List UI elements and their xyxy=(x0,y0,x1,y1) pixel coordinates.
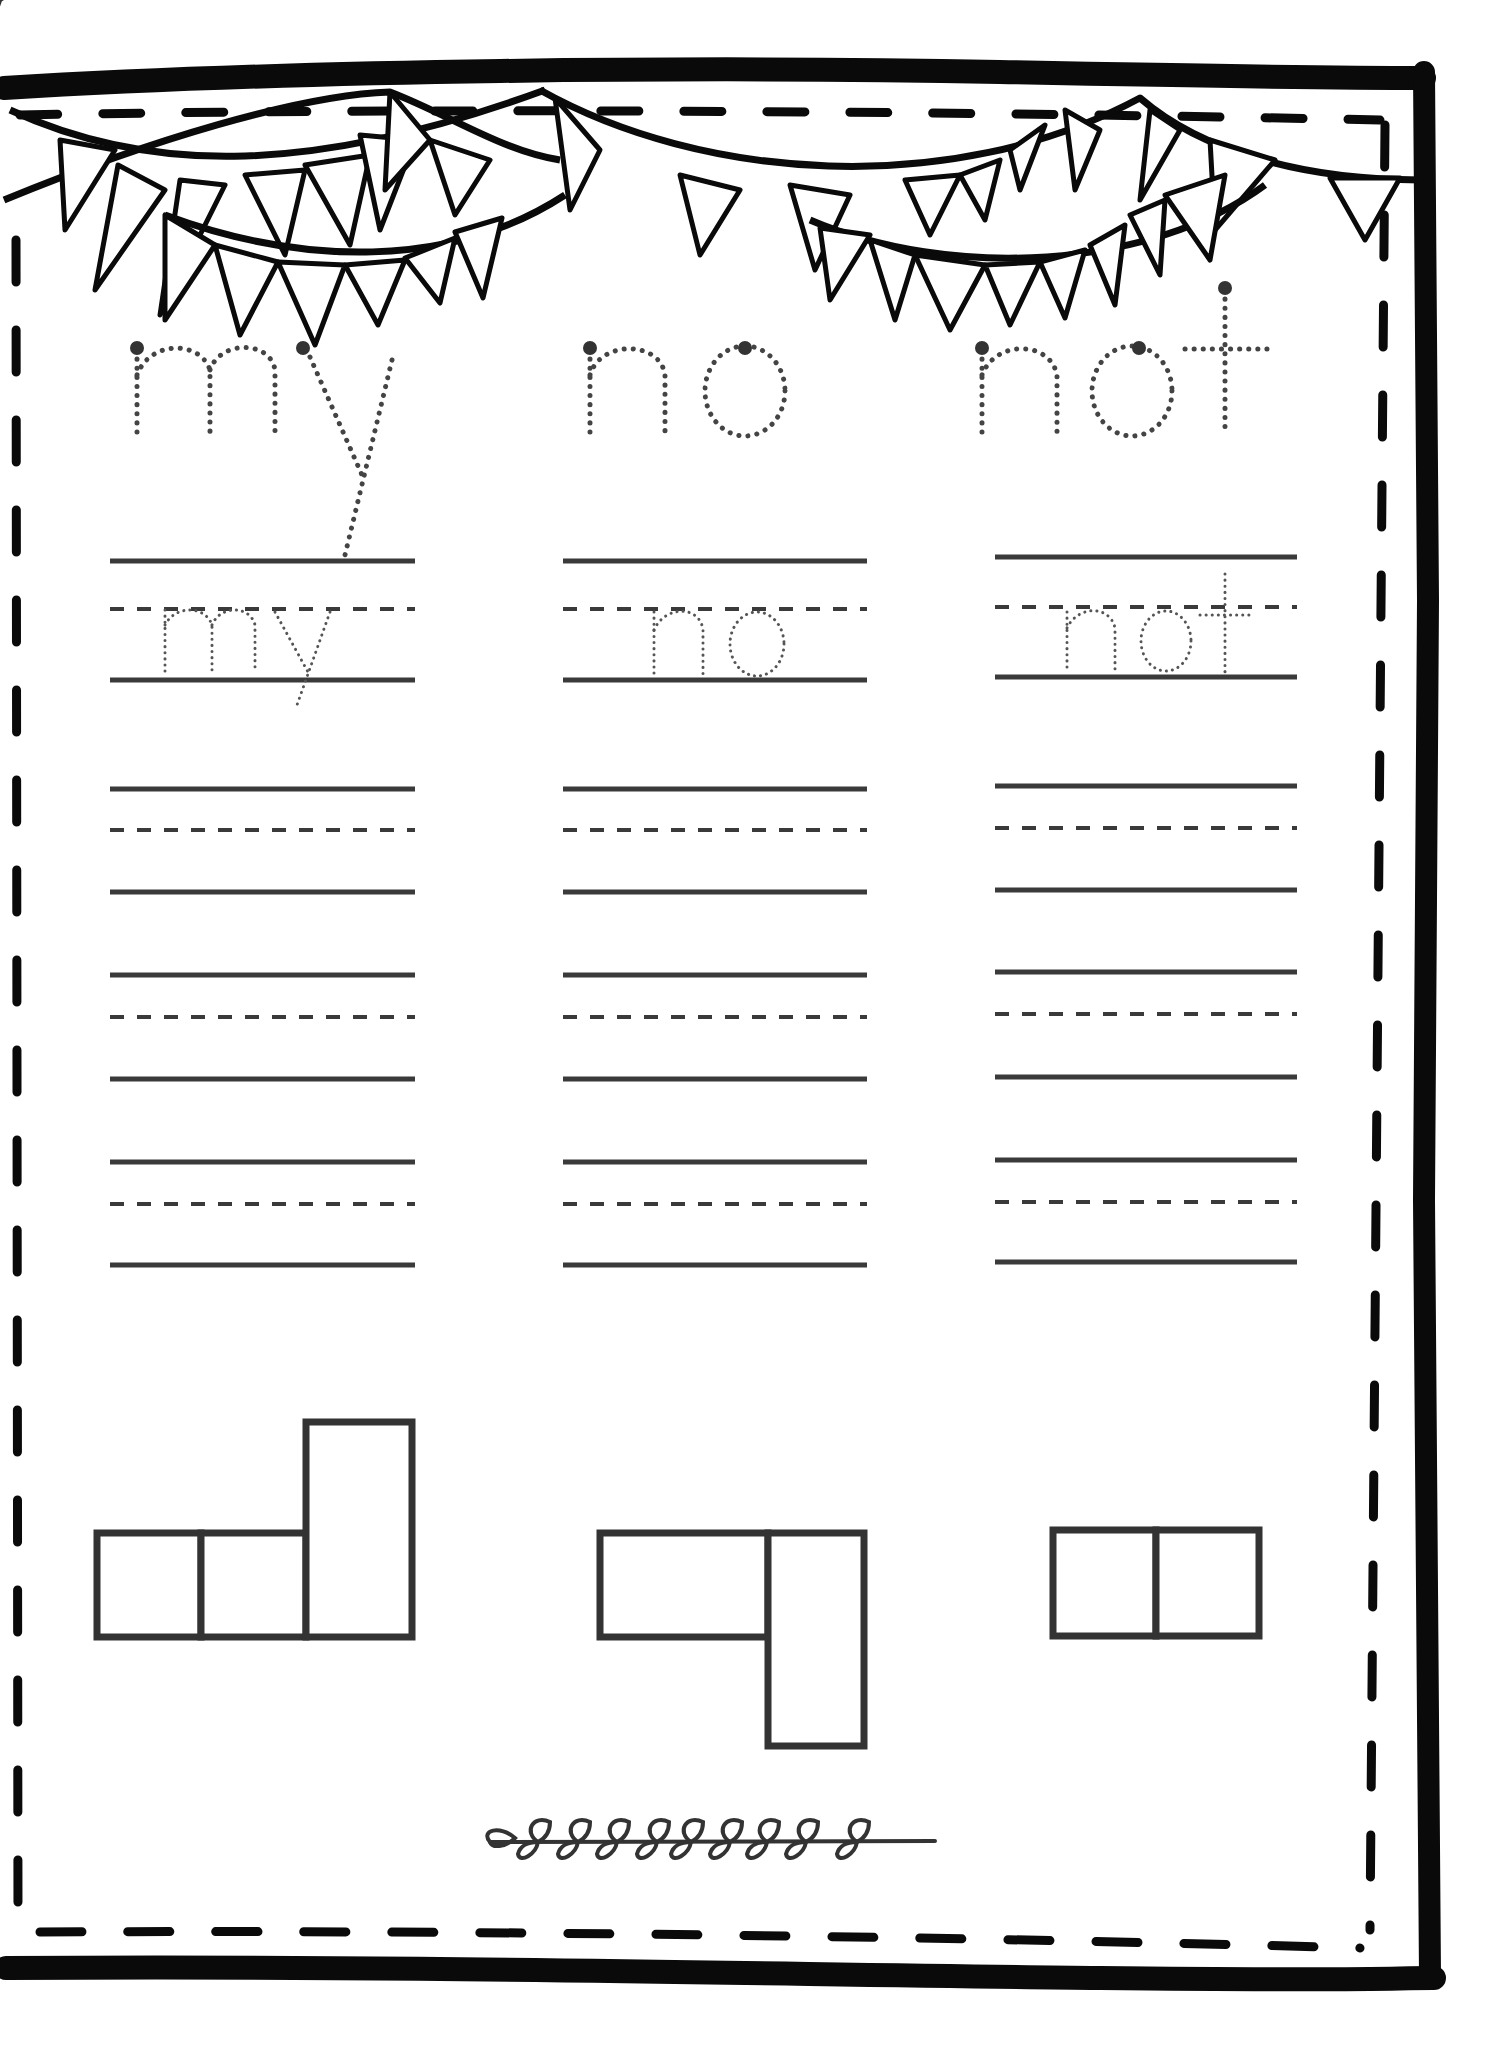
word-shape-no xyxy=(600,1533,864,1746)
trace-word-large-my xyxy=(137,348,392,556)
trace-word-small-not xyxy=(1067,574,1253,672)
word-shape-not xyxy=(1053,1530,1259,1636)
column-no-lines xyxy=(563,561,867,1265)
column-my-lines xyxy=(110,561,415,1265)
word-shape-my xyxy=(97,1422,412,1637)
trace-word-small-my xyxy=(165,610,330,705)
worksheet-page xyxy=(0,0,1499,2051)
word-shape-boxes xyxy=(97,1422,1259,1746)
inner-dashed-border xyxy=(16,111,1385,1948)
trace-word-large-no xyxy=(590,346,785,436)
handwriting-lines xyxy=(110,557,1297,1265)
column-not-lines xyxy=(995,557,1297,1262)
trace-word-small-no xyxy=(654,611,784,676)
bunting-garland-icon xyxy=(4,90,1420,345)
trace-word-large-not xyxy=(982,290,1268,436)
